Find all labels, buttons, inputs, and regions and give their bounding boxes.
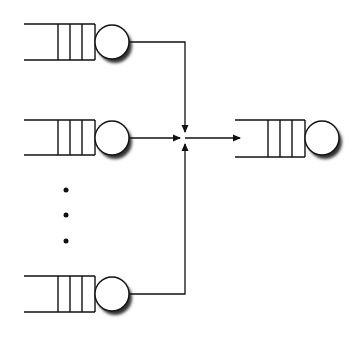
queueing-merge-diagram [0,0,360,337]
server-2-icon [95,121,132,159]
input-queue-1 [24,24,95,60]
input-queue-n [24,276,95,312]
output-server-icon [305,121,342,159]
input-queue-2 [24,120,95,155]
output-queue [235,120,305,157]
server-n-icon [95,277,132,315]
server-1-icon [95,25,132,63]
flow-line-n [129,144,185,294]
flow-line-1 [129,42,185,132]
ellipsis-dots [64,188,69,244]
